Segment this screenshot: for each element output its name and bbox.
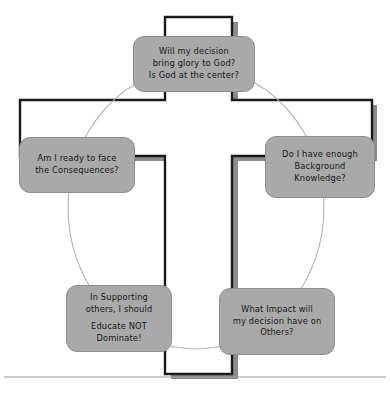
node-background-knowledge-line-2: Background bbox=[295, 161, 346, 173]
node-consequences-line-1: Am I ready to face bbox=[37, 153, 116, 165]
node-glory-to-god[interactable]: Will my decision bring glory to God? Is … bbox=[133, 36, 255, 92]
node-glory-to-god-line-2: bring glory to God? bbox=[153, 58, 236, 70]
node-impact-on-others-line-2: my decision have on bbox=[233, 316, 322, 328]
node-impact-on-others-line-1: What Impact will bbox=[241, 304, 313, 316]
node-impact-on-others-line-3: Others? bbox=[260, 327, 293, 339]
node-background-knowledge-line-1: Do I have enough bbox=[282, 149, 358, 161]
node-background-knowledge[interactable]: Do I have enough Background Knowledge? bbox=[265, 136, 375, 198]
node-educate-not-dominate[interactable]: In Supporting others, I should Educate N… bbox=[66, 285, 172, 352]
node-consequences-line-2: the Consequences? bbox=[35, 165, 119, 177]
node-impact-on-others[interactable]: What Impact will my decision have on Oth… bbox=[219, 288, 335, 355]
node-background-knowledge-line-3: Knowledge? bbox=[294, 173, 346, 185]
node-educate-not-dominate-line-2: others, I should bbox=[86, 304, 153, 316]
node-consequences[interactable]: Am I ready to face the Consequences? bbox=[19, 137, 135, 193]
node-educate-not-dominate-line-3: Educate NOT bbox=[91, 321, 147, 333]
node-educate-not-dominate-line-4: Dominate! bbox=[96, 333, 141, 345]
node-glory-to-god-line-1: Will my decision bbox=[159, 46, 229, 58]
diagram-canvas: Will my decision bring glory to God? Is … bbox=[0, 0, 390, 401]
node-glory-to-god-line-3: Is God at the center? bbox=[149, 70, 239, 82]
diagram-artboard: Will my decision bring glory to God? Is … bbox=[0, 0, 390, 401]
node-educate-not-dominate-line-1: In Supporting bbox=[90, 292, 148, 304]
